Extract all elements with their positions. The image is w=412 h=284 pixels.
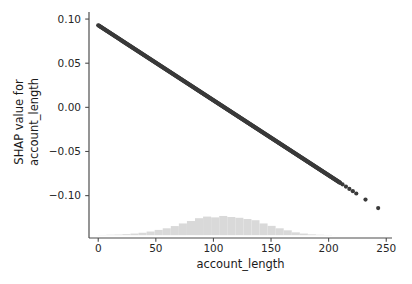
chart-canvas: 0.100.050.00−0.05−0.10 050100150200250 a… (0, 0, 412, 284)
histogram-bar (195, 218, 203, 235)
histogram-bar (139, 233, 147, 235)
histogram-bar (268, 226, 276, 235)
histogram-bar (163, 228, 171, 235)
histogram-bar (155, 230, 163, 235)
y-tick-label: −0.05 (49, 145, 81, 157)
scatter-point (340, 182, 344, 186)
x-tick-label: 150 (261, 242, 281, 254)
histogram-bar (300, 234, 308, 236)
histogram-bar (227, 217, 235, 235)
x-axis-label: account_length (196, 257, 284, 271)
scatter-point (363, 198, 367, 202)
histogram-bar (147, 232, 155, 236)
histogram-bar (211, 217, 219, 235)
x-tick-label: 100 (203, 242, 223, 254)
scatter-point (351, 189, 355, 193)
y-axis-label-line-1: SHAP value for (12, 79, 26, 165)
shap-dependence-plot-figure: 0.100.050.00−0.05−0.10 050100150200250 a… (0, 0, 412, 284)
histogram-bar (292, 232, 300, 235)
x-tick-label: 0 (95, 242, 102, 254)
y-tick-label: 0.00 (58, 101, 81, 113)
histogram-bar (179, 223, 187, 235)
y-tick-label: −0.10 (49, 189, 81, 201)
x-tick-label: 50 (149, 242, 162, 254)
histogram-bar (122, 234, 130, 235)
scatter-point (344, 185, 348, 189)
histogram-bar (235, 218, 243, 235)
y-tick-label: 0.05 (58, 57, 81, 69)
histogram-bar (308, 234, 316, 235)
y-axis-label-line-2: account_length (27, 78, 41, 166)
scatter-point (347, 187, 351, 191)
y-tick-label: 0.10 (58, 13, 81, 25)
histogram-bar (243, 219, 251, 235)
x-tick-label: 250 (376, 242, 396, 254)
histogram-bar (284, 230, 292, 235)
histogram-bar (260, 223, 268, 235)
histogram-bar (276, 228, 284, 235)
x-tick-label: 200 (319, 242, 339, 254)
y-axis-label: SHAP value for account_length (12, 78, 41, 166)
histogram-bar (203, 217, 211, 236)
histogram-bar (130, 234, 138, 236)
histogram-bar (219, 216, 227, 235)
histogram-bar (187, 221, 195, 235)
scatter-point (376, 206, 380, 210)
scatter-point (354, 191, 358, 195)
histogram-bar (171, 226, 179, 235)
histogram-bar (114, 235, 122, 236)
histogram-bar (251, 220, 259, 235)
